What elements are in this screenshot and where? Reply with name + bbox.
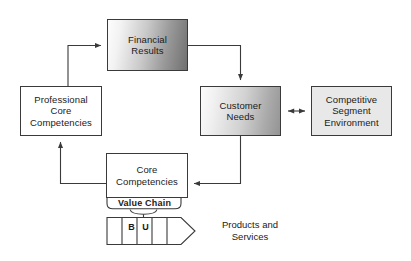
connector-customer-needs-to-core-competencies — [194, 136, 241, 184]
label-business-unit-b: B — [126, 222, 137, 234]
node-financial-results[interactable]: Financial Results — [107, 19, 188, 71]
node-core-competencies[interactable]: Core Competencies — [106, 153, 188, 198]
node-professional-core-competencies-label: Professional Core Competencies — [28, 94, 94, 129]
label-products-and-services: Products and Services — [205, 219, 295, 242]
node-customer-needs[interactable]: Customer Needs — [200, 86, 281, 136]
connector-value-chain-to-business-unit — [130, 210, 157, 215]
label-business-unit-u: U — [140, 222, 151, 234]
node-competitive-segment-environment-label: Competitive Segment Environment — [322, 94, 380, 129]
connector-professional-core-to-financial-results — [68, 46, 101, 87]
shape-business-unit-chevron — [107, 218, 195, 245]
node-financial-results-label: Financial Results — [126, 34, 169, 57]
label-value-chain: Value Chain — [108, 198, 181, 210]
node-customer-needs-label: Customer Needs — [218, 100, 264, 123]
connector-core-competencies-to-professional-core — [61, 142, 107, 184]
node-core-competencies-label: Core Competencies — [114, 164, 180, 187]
node-professional-core-competencies[interactable]: Professional Core Competencies — [20, 86, 102, 136]
diagram-canvas: Financial Results Professional Core Comp… — [0, 0, 411, 261]
node-competitive-segment-environment[interactable]: Competitive Segment Environment — [311, 86, 392, 136]
connector-financial-results-to-customer-needs — [188, 46, 241, 81]
